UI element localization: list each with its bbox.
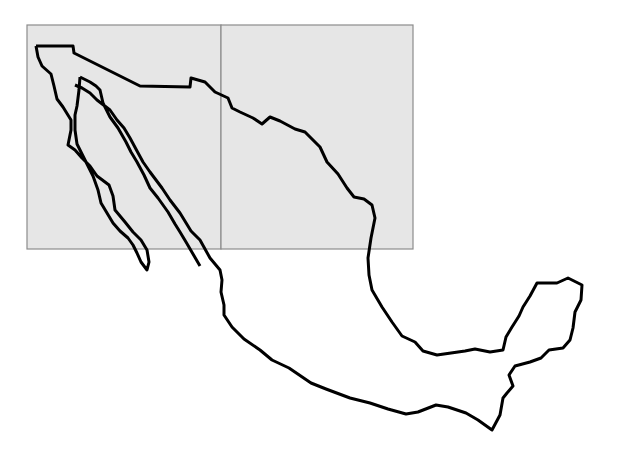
right-region-box — [221, 25, 413, 249]
map-canvas — [0, 0, 625, 472]
